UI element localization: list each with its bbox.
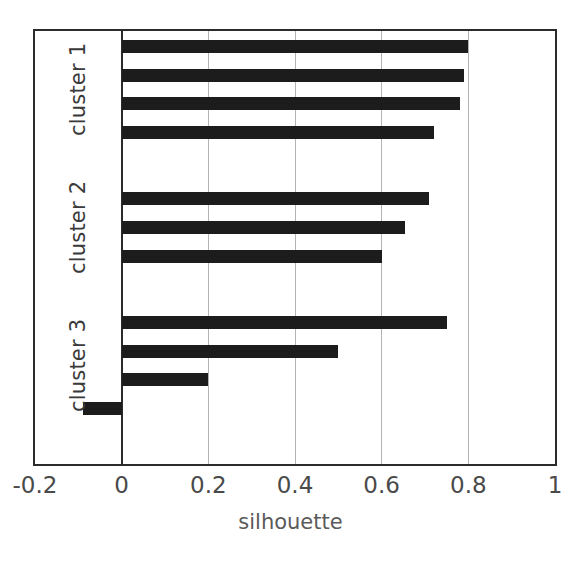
bar xyxy=(122,373,209,386)
bar xyxy=(122,126,434,139)
x-tick-label: 0.6 xyxy=(363,472,400,498)
cluster-label-1: cluster 1 xyxy=(66,43,90,136)
bar xyxy=(122,345,339,358)
x-tick-label: 0 xyxy=(114,472,129,498)
plot-area xyxy=(35,31,555,464)
bar xyxy=(122,221,406,234)
bar xyxy=(122,69,464,82)
gridline xyxy=(381,31,382,464)
x-tick-label: 0.8 xyxy=(450,472,487,498)
gridline xyxy=(295,31,296,464)
bar xyxy=(122,40,469,53)
silhouette-plot-figure: cluster 1cluster 2cluster 3 -0.200.20.40… xyxy=(0,0,581,561)
bar xyxy=(122,192,430,205)
bar xyxy=(122,316,447,329)
gridline xyxy=(468,31,469,464)
x-tick-label: -0.2 xyxy=(13,472,58,498)
cluster-label-3: cluster 3 xyxy=(66,319,90,412)
bar xyxy=(122,250,382,263)
x-axis-title: silhouette xyxy=(0,510,581,534)
zero-reference-line xyxy=(121,31,123,464)
cluster-label-2: cluster 2 xyxy=(66,181,90,274)
gridline xyxy=(208,31,209,464)
x-tick-label: 0.2 xyxy=(190,472,227,498)
plot-frame xyxy=(33,29,557,466)
bar xyxy=(122,97,460,110)
x-tick-label: 0.4 xyxy=(277,472,314,498)
x-tick-label: 1 xyxy=(548,472,563,498)
